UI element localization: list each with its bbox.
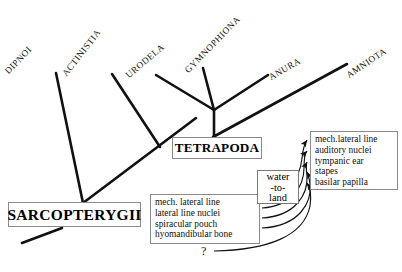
water-to-land-label: water -to- land	[257, 170, 299, 204]
trait-item: stapes	[315, 166, 394, 177]
trait-item: mech.lateral line	[315, 134, 394, 145]
trait-list-aquatic: mech. lateral line lateral line nuclei s…	[150, 194, 260, 244]
branch-dipnoi	[56, 73, 83, 203]
trait-item: basilar papilla	[315, 177, 394, 188]
clade-label-tetrapoda: TETRAPODA	[172, 137, 262, 159]
branch-root	[22, 228, 62, 243]
branch-backbone	[83, 118, 196, 203]
trait-item: lateral line nuclei	[155, 208, 256, 219]
diagram-canvas: DIPNOI ACTINISTIA URODELA GYMNOPHIONA AN…	[0, 0, 402, 272]
trait-item: spiracular pouch	[155, 219, 256, 230]
branch-anura	[214, 75, 268, 110]
trait-item: tympanic ear	[315, 156, 394, 167]
trait-list-terrestrial: mech.lateral line auditory nuclei tympan…	[310, 131, 398, 190]
clade-label-sarcopterygii-text: SARCOPTERYGII	[7, 206, 141, 224]
clade-label-sarcopterygii: SARCOPTERYGII	[8, 202, 141, 227]
trait-item: mech. lateral line	[155, 197, 256, 208]
water-to-land-line-3: land	[258, 193, 298, 204]
trait-item: auditory nuclei	[315, 145, 394, 156]
trait-item: hyomandibular bone	[155, 229, 256, 240]
uncertainty-marker: ?	[201, 244, 206, 259]
clade-label-tetrapoda-text: TETRAPODA	[175, 140, 260, 156]
water-to-land-line-1: water	[258, 172, 298, 183]
branch-actinistia	[112, 74, 160, 147]
